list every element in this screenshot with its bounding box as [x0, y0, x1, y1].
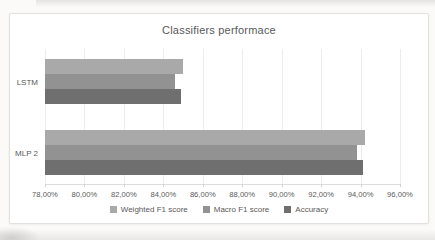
x-tick [361, 184, 362, 187]
x-tick-label: 88,00% [229, 190, 255, 199]
gridline [400, 49, 401, 184]
category-label: MLP 2 [8, 148, 45, 157]
bar [45, 89, 181, 104]
legend-swatch-icon [110, 206, 117, 213]
x-tick [400, 184, 401, 187]
x-tick-label: 82,00% [111, 190, 137, 199]
bar-group: MLP 2 [45, 130, 400, 175]
x-tick [242, 184, 243, 187]
bar-group: LSTM [45, 59, 400, 104]
x-tick-label: 92,00% [308, 190, 334, 199]
x-axis: 78,00%80,00%82,00%84,00%86,00%88,00%90,0… [45, 190, 400, 200]
x-tick-label: 78,00% [32, 190, 58, 199]
x-tick-label: 86,00% [190, 190, 216, 199]
legend-label: Macro F1 score [214, 205, 270, 214]
x-tick-label: 84,00% [150, 190, 176, 199]
photo-artifact-left [0, 226, 40, 240]
bar [45, 59, 183, 74]
x-tick-label: 80,00% [72, 190, 98, 199]
photo-artifact-bottom [0, 229, 435, 240]
photo-artifact-top [36, 0, 435, 7]
x-tick [124, 184, 125, 187]
legend-item: Weighted F1 score [110, 205, 188, 214]
plot-area: LSTMMLP 2 [45, 49, 400, 185]
page-background: Classifiers performace LSTMMLP 2 78,00%8… [0, 0, 435, 240]
legend-item: Macro F1 score [203, 205, 270, 214]
legend-label: Accuracy [295, 205, 328, 214]
x-tick-label: 94,00% [348, 190, 374, 199]
legend: Weighted F1 scoreMacro F1 scoreAccuracy [10, 205, 428, 214]
legend-swatch-icon [203, 206, 210, 213]
chart-title: Classifiers performace [10, 24, 428, 36]
legend-item: Accuracy [284, 205, 328, 214]
x-tick [163, 184, 164, 187]
x-tick-label: 90,00% [269, 190, 295, 199]
legend-swatch-icon [284, 206, 291, 213]
chart: Classifiers performace LSTMMLP 2 78,00%8… [9, 13, 429, 224]
x-tick [321, 184, 322, 187]
x-tick [84, 184, 85, 187]
bar [45, 160, 363, 175]
x-tick [203, 184, 204, 187]
x-tick-label: 96,00% [387, 190, 413, 199]
category-label: LSTM [8, 77, 45, 86]
bar [45, 145, 357, 160]
bar [45, 74, 175, 89]
bar [45, 130, 365, 145]
legend-label: Weighted F1 score [121, 205, 188, 214]
x-tick [282, 184, 283, 187]
x-tick [45, 184, 46, 187]
